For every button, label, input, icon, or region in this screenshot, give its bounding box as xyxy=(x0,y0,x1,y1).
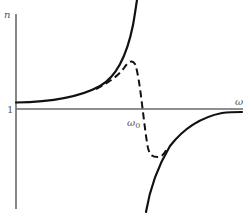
dispersion-diagram xyxy=(0,0,251,218)
resonance-label-main: ω xyxy=(127,117,135,128)
reference-level-label: 1 xyxy=(7,105,13,115)
solid-curve-above-resonance xyxy=(146,112,242,212)
resonance-label-subscript: 0 xyxy=(135,121,140,130)
y-axis-label-n: n xyxy=(4,10,10,20)
x-axis-label: ω xyxy=(235,97,243,107)
resonance-frequency-label: ω0 xyxy=(127,118,140,130)
solid-curve-below-resonance xyxy=(16,0,137,103)
